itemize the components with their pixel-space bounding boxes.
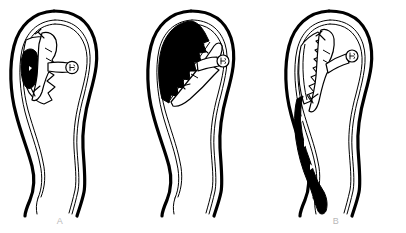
amniotic-membrane-line-right-inner (55, 24, 87, 213)
panel-c-revealed-hemorrhage: C (271, 0, 406, 233)
fetal-neck (48, 62, 68, 72)
blood-collection (295, 96, 327, 214)
figure-placental-abruption: A B (0, 0, 406, 233)
cervix-canal (36, 198, 38, 214)
panel-a-label: A (50, 216, 70, 226)
cervix-canal (173, 198, 175, 214)
panel-b-concealed-extensive: B (135, 0, 270, 233)
panel-a-concealed-hemorrhage: A (0, 0, 135, 233)
